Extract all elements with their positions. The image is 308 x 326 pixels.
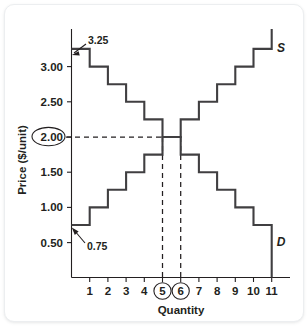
x-axis-tick-labels: 1 2 3 4 5 6 7 8 9 10 11	[86, 283, 278, 299]
y-axis-title: Price ($/unit)	[16, 125, 28, 195]
supply-curve-label: S	[277, 41, 285, 55]
x-tick-label-8: 9	[232, 285, 238, 297]
x-tick-label-1: 2	[105, 285, 111, 297]
chart-svg: 0.50 1.00 1.50 2.00 2.50 3.00 Price ($/u…	[0, 0, 308, 326]
y-tick-label-4: 2.50	[41, 96, 63, 108]
x-tick-label-0: 1	[86, 285, 93, 297]
y-axis-ticks	[67, 67, 72, 243]
y-tick-label-1: 1.00	[41, 201, 63, 213]
x-tick-label-10: 11	[266, 285, 279, 297]
y-axis-tick-labels: 0.50 1.00 1.50 2.00 2.50 3.00	[32, 61, 65, 249]
supply-curve-path	[72, 29, 272, 225]
x-tick-label-6: 7	[196, 285, 202, 297]
supply-start-annotation: 0.75	[72, 228, 108, 252]
supply-demand-chart: 0.50 1.00 1.50 2.00 2.50 3.00 Price ($/u…	[0, 0, 308, 326]
demand-curve-label: D	[277, 235, 286, 249]
x-axis-title: Quantity	[158, 304, 205, 316]
x-tick-label-7: 8	[214, 285, 221, 297]
x-tick-label-3: 4	[141, 285, 148, 297]
x-tick-label-9: 10	[247, 285, 260, 297]
equilibrium-guides	[66, 137, 183, 279]
demand-start-label: 3.25	[88, 34, 109, 46]
y-tick-label-2: 1.50	[41, 166, 63, 178]
y-tick-label-3-equilibrium: 2.00	[41, 131, 63, 143]
y-tick-label-5: 3.00	[41, 61, 63, 73]
x-axis-ticks	[90, 278, 272, 283]
supply-start-label: 0.75	[87, 240, 108, 252]
x-tick-label-4-equilibrium-low: 5	[159, 285, 166, 297]
x-tick-label-2: 3	[123, 285, 129, 297]
y-tick-label-0: 0.50	[41, 237, 63, 249]
x-tick-label-5-equilibrium-high: 6	[177, 285, 183, 297]
